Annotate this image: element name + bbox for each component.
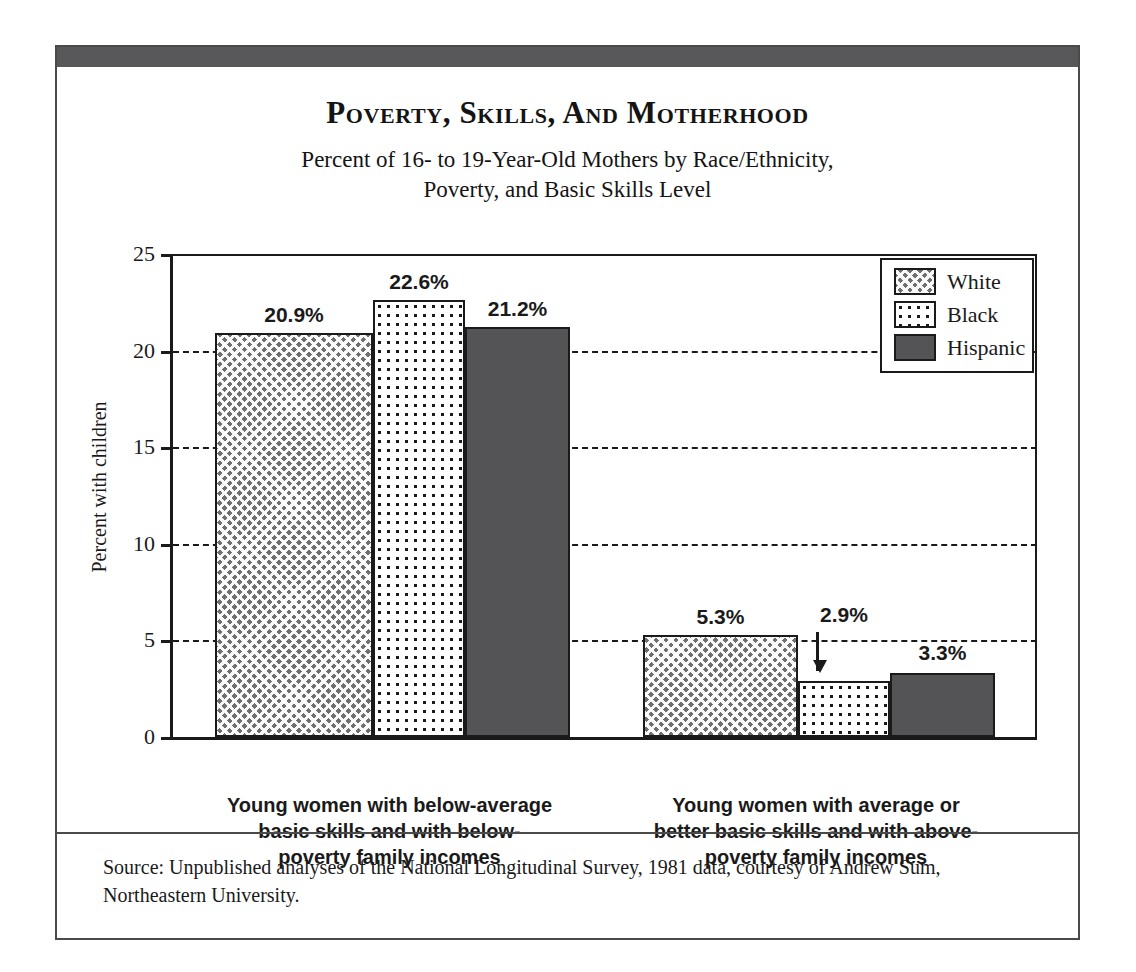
y-axis-tick — [161, 254, 173, 257]
category-label-line: basic skills and with below- — [212, 818, 567, 844]
chart-subtitle-line-1: Percent of 16- to 19-Year-Old Mothers by… — [57, 145, 1078, 175]
plot-right-border — [1035, 254, 1037, 737]
bar-white-group-1 — [215, 333, 373, 737]
y-axis-tick-label: 20 — [133, 338, 155, 364]
y-axis-tick — [161, 640, 173, 643]
bar-white-group-2 — [643, 635, 798, 737]
plot-top-border — [173, 254, 1037, 256]
legend-label-hispanic: Hispanic — [947, 335, 1025, 361]
bar-black-group-1 — [373, 300, 465, 737]
legend-label-black: Black — [947, 302, 998, 328]
y-axis-tick — [161, 737, 173, 740]
bar-label-hispanic-group-1: 21.2% — [488, 297, 548, 321]
legend-item-hispanic[interactable]: Hispanic — [894, 334, 1022, 361]
category-label-line: better basic skills and with above- — [640, 818, 992, 844]
chart-title: Poverty, Skills, and Motherhood — [57, 95, 1078, 131]
chart-subtitle-line-2: Poverty, and Basic Skills Level — [57, 175, 1078, 205]
y-axis-tick — [161, 544, 173, 547]
bar-hispanic-group-2 — [890, 673, 995, 737]
y-axis-tick-label: 25 — [133, 241, 155, 267]
legend-swatch-hispanic — [894, 334, 936, 361]
annotation-arrow-icon — [816, 632, 819, 671]
bar-black-group-2 — [798, 681, 890, 737]
figure-top-bar — [57, 47, 1078, 67]
y-axis-title: Percent with children — [88, 401, 111, 572]
bar-label-white-group-1: 20.9% — [264, 303, 324, 327]
legend: WhiteBlackHispanic — [880, 258, 1034, 373]
figure-frame: Poverty, Skills, and Motherhood Percent … — [55, 45, 1080, 940]
legend-item-white[interactable]: White — [894, 268, 1022, 295]
bar-label-hispanic-group-2: 3.3% — [919, 641, 967, 665]
legend-item-black[interactable]: Black — [894, 301, 1022, 328]
source-divider — [57, 832, 1078, 834]
category-label-line: Young women with below-average — [212, 792, 567, 818]
legend-label-white: White — [947, 269, 1001, 295]
bar-label-black-group-1: 22.6% — [389, 270, 449, 294]
category-label-line: Young women with average or — [640, 792, 992, 818]
bar-label-white-group-2: 5.3% — [697, 605, 745, 629]
y-axis-tick — [161, 447, 173, 450]
bar-label-black-group-2: 2.9% — [820, 603, 868, 627]
legend-swatch-white — [894, 268, 936, 295]
bar-hispanic-group-1 — [465, 327, 570, 737]
y-axis-tick-label: 10 — [133, 531, 155, 557]
legend-swatch-black — [894, 301, 936, 328]
annotation-arrow-head-icon — [813, 660, 827, 673]
y-axis-tick-label: 15 — [133, 434, 155, 460]
y-axis-tick-label: 5 — [144, 627, 155, 653]
source-note: Source: Unpublished analyses of the Nati… — [103, 853, 1043, 909]
y-axis-tick — [161, 351, 173, 354]
y-axis-tick-label: 0 — [144, 724, 155, 750]
chart-subtitle: Percent of 16- to 19-Year-Old Mothers by… — [57, 145, 1078, 205]
